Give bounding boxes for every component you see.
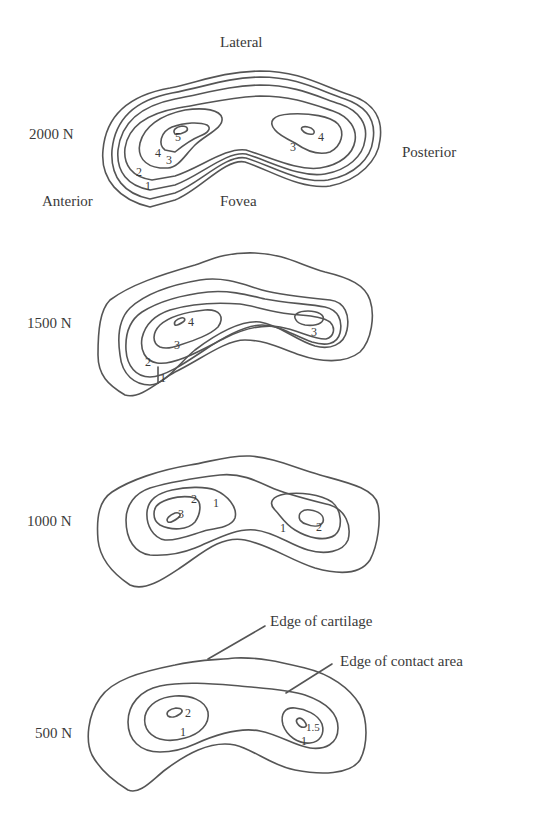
contact-pressure-diagram: Lateral Anterior Posterior Fovea 2000 N … [0, 0, 544, 825]
contour-label: 4 [188, 316, 194, 328]
contour-label: 2 [185, 707, 191, 719]
load-label-2000n: 2000 N [29, 126, 74, 143]
load-label-1500n: 1500 N [27, 315, 72, 332]
load-label-1000n: 1000 N [27, 513, 72, 530]
contour-label: 5 [175, 131, 181, 143]
contour-label: 2 [145, 356, 151, 368]
anterior-label: Anterior [42, 193, 93, 210]
contour-label: 1.5 [306, 722, 320, 733]
contour-label: 1 [180, 726, 186, 738]
contour-label: 2 [316, 521, 322, 533]
contour-lines [0, 0, 544, 825]
contour-label: 3 [178, 508, 184, 520]
edge-of-contact-area-annotation: Edge of contact area [340, 653, 463, 670]
edge-of-cartilage-annotation: Edge of cartilage [270, 613, 372, 630]
cartilage-leader-line [208, 626, 265, 659]
panel-1000n-contours [98, 456, 380, 587]
contour-label: 2 [191, 493, 197, 505]
contour-label: 3 [311, 326, 317, 338]
contour-label: 3 [166, 154, 172, 166]
fovea-label: Fovea [220, 193, 257, 210]
contour-label: 1 [160, 372, 166, 384]
contour-label: 4 [155, 147, 161, 159]
load-label-500n: 500 N [35, 725, 72, 742]
contour-label: 1 [280, 522, 286, 534]
contour-label: 1 [301, 735, 307, 747]
contour-label: 4 [318, 131, 324, 143]
contour-label: 1 [213, 497, 219, 509]
panel-1500n-contours [98, 253, 372, 396]
contour-label: 1 [145, 180, 151, 192]
panel-500n-contours [88, 626, 366, 791]
contour-label: 3 [174, 339, 180, 351]
lateral-label: Lateral [220, 34, 262, 51]
contour-label: 3 [290, 141, 296, 153]
posterior-label: Posterior [402, 144, 456, 161]
contour-label: 2 [136, 166, 142, 178]
